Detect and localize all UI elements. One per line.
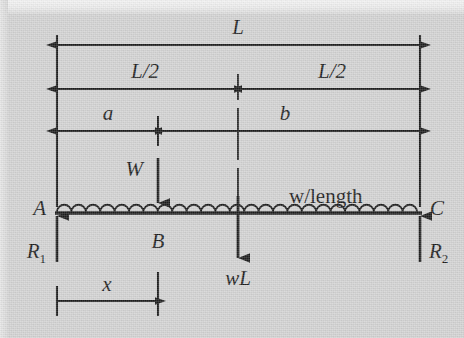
dimension-label-x: x (101, 272, 112, 296)
dimension-L-half-right: L/2 (242, 59, 420, 89)
reaction-label-R2: R2 (428, 239, 448, 266)
dimension-label-L-half-right: L/2 (317, 59, 347, 83)
node-label-C: C (430, 196, 445, 220)
beam-diagram-canvas: L L/2 L/2 a b W w/leng (0, 0, 464, 338)
point-load-W: W (126, 157, 159, 203)
reaction-left: R1 (26, 216, 57, 266)
dimension-label-L: L (231, 15, 244, 39)
dimension-b: b (162, 101, 420, 131)
dimension-label-L-half-left: L/2 (130, 59, 160, 83)
dimension-a: a (57, 101, 155, 131)
resultant-label-wL: wL (225, 266, 251, 290)
beam-diagram-figure: L L/2 L/2 a b W w/leng (0, 0, 464, 338)
dimension-L: L (57, 15, 420, 45)
dimension-L-half-left: L/2 (57, 59, 234, 89)
distributed-load-label: w/length (289, 184, 363, 208)
reaction-right: R2 (420, 216, 448, 266)
dimension-label-a: a (103, 101, 114, 125)
node-label-A: A (31, 196, 46, 220)
point-load-label-W: W (126, 157, 146, 181)
reaction-label-R1: R1 (26, 239, 46, 266)
node-label-B: B (152, 229, 165, 253)
dimension-x: x (57, 272, 158, 316)
dimension-label-b: b (280, 101, 291, 125)
